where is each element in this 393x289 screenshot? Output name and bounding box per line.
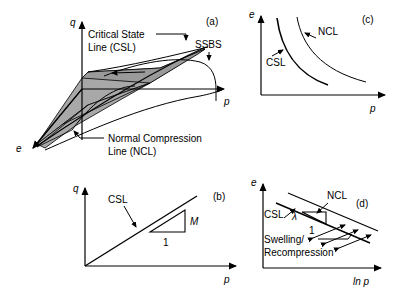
panel-d-slope-run-label: 1: [309, 225, 315, 236]
csl-leader-c: [272, 50, 283, 56]
panel-b-axis-p-label: p: [223, 274, 230, 285]
panel-d-axis-lnp-label: ln p: [353, 276, 370, 287]
panel-b-csl-label: CSL: [108, 194, 128, 205]
figure-canvas: Critical State Line (CSL) SSBS Normal Co…: [0, 0, 393, 289]
panel-d-swelling-label-line1: Swelling/: [264, 234, 304, 245]
panel-d-tag: (d): [356, 198, 368, 209]
panel-c-tag: (c): [362, 14, 374, 25]
csl-leader-b: [124, 206, 136, 227]
panel-b-tag: (b): [213, 191, 225, 202]
panel-d-csl-label: CSL: [264, 209, 284, 220]
panel-b-slope-rise-label: M: [190, 216, 199, 227]
ncl-leader-a: [74, 131, 104, 138]
panel-a-axis-e-label: e: [16, 143, 22, 154]
panel-a-ncl-label-line1: Normal Compression: [108, 133, 202, 144]
panel-d-lambda-label: λ: [291, 211, 297, 222]
ssbs-top-face: [82, 49, 205, 83]
panel-c-ncl-label: NCL: [318, 26, 338, 37]
panel-d-swelling-label-line2: Recompression: [264, 247, 333, 258]
slope-triangle-b: [150, 210, 185, 232]
panel-c: NCL CSL e p (c): [249, 9, 385, 114]
panel-a-axis-q-label: q: [70, 17, 76, 28]
panel-b-slope-run-label: 1: [163, 237, 169, 248]
ncl-leader-c: [305, 33, 316, 38]
panel-a-ncl-label-line2: Line (NCL): [108, 146, 156, 157]
panel-d-ncl-label: NCL: [327, 190, 347, 201]
panel-b: CSL M 1 q p (b): [73, 183, 236, 285]
swelling-line-1: [313, 225, 345, 238]
panel-a-ssbs-label: SSBS: [195, 39, 222, 50]
panel-c-csl-label: CSL: [266, 57, 286, 68]
panel-d: NCL CSL λ 1 Swelling/ Recompression e ln…: [251, 177, 381, 287]
panel-c-axis-p-label: p: [369, 103, 376, 114]
panel-d-axis-e-label: e: [251, 177, 257, 188]
slope-triangle-d: [302, 212, 326, 224]
panel-a-csl-label-line2: Line (CSL): [88, 42, 136, 53]
panel-c-axis-e-label: e: [249, 9, 255, 20]
csl-line-b: [85, 196, 197, 266]
panel-a-tag: (a): [206, 16, 218, 27]
panel-a-axis-p-label: p: [223, 96, 230, 107]
panel-a-csl-label-line1: Critical State: [88, 29, 145, 40]
panel-a: Critical State Line (CSL) SSBS Normal Co…: [16, 16, 230, 157]
panel-b-axis-q-label: q: [73, 183, 79, 194]
csl-leader-a: [156, 34, 186, 40]
